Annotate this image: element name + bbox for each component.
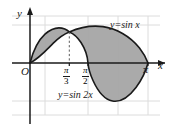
x-axis-label: x: [158, 60, 163, 71]
fraction-denominator: 2: [82, 77, 89, 86]
tick-label-pi: π: [143, 65, 148, 75]
curve-label-sin-x: y=sin x: [110, 20, 140, 30]
fraction-denominator: 3: [63, 77, 70, 86]
fraction-numerator: π: [63, 66, 70, 75]
curve-label-sin-2x: y=sin 2x: [58, 90, 93, 100]
y-axis-label: y: [17, 8, 22, 19]
origin-label: O: [21, 66, 29, 77]
tick-label-pi-over-3: π 3: [63, 66, 70, 86]
tick-label-pi-over-2: π 2: [82, 66, 89, 86]
math-figure: y x O π π 3 π 2 y=sin x y=sin 2x: [0, 0, 171, 130]
y-axis-arrow: [27, 7, 33, 15]
fraction-numerator: π: [82, 66, 89, 75]
